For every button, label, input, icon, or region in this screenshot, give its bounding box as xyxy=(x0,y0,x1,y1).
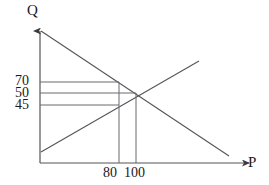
x-tick-label-80: 80 xyxy=(103,166,117,180)
upward-sloping-line xyxy=(41,61,199,152)
x-axis-label: P xyxy=(248,155,256,170)
chart-canvas xyxy=(0,0,269,185)
x-tick-label-100: 100 xyxy=(124,166,145,180)
y-tick-label-45: 45 xyxy=(15,98,29,112)
y-axis-label: Q xyxy=(27,3,38,18)
economics-supply-demand-figure: Q P 70 50 45 80 100 xyxy=(0,0,269,185)
